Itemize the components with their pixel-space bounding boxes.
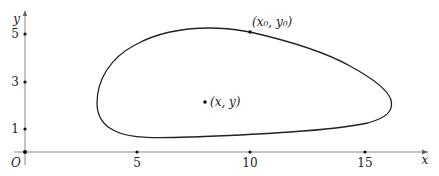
y-tick-label-1: 1 bbox=[11, 122, 19, 136]
x-tick-10 bbox=[248, 150, 251, 153]
y-tick-3 bbox=[23, 80, 26, 83]
closed-curve bbox=[97, 28, 392, 138]
origin-label: O bbox=[11, 156, 21, 170]
y-tick-5 bbox=[23, 32, 26, 35]
x-tick-label-5: 5 bbox=[133, 156, 141, 170]
y-tick-1 bbox=[23, 127, 26, 130]
x-tick-label-10: 10 bbox=[242, 156, 257, 170]
interior-point bbox=[203, 100, 207, 104]
diagram-canvas: 5 10 15 1 3 5 y x O (x, y) (x₀, y₀) bbox=[0, 0, 439, 176]
y-axis-label: y bbox=[12, 12, 20, 26]
x-tick-15 bbox=[363, 150, 366, 153]
x-tick-5 bbox=[135, 150, 138, 153]
y-tick-label-3: 3 bbox=[11, 75, 19, 89]
y-axis-arrow-icon bbox=[23, 10, 27, 16]
interior-point-label: (x, y) bbox=[210, 95, 241, 109]
x-tick-label-15: 15 bbox=[357, 156, 372, 170]
x-axis-label: x bbox=[422, 153, 429, 167]
boundary-point bbox=[248, 30, 252, 34]
boundary-point-label: (x₀, y₀) bbox=[252, 15, 292, 29]
origin-dot bbox=[23, 150, 27, 154]
y-tick-label-5: 5 bbox=[11, 27, 19, 41]
